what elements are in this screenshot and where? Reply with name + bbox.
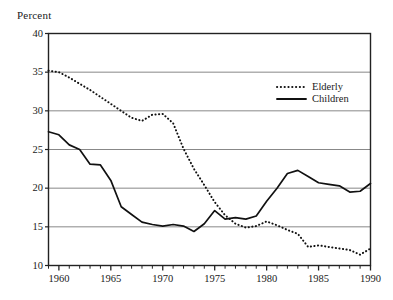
y-tick-label: 15 [21, 222, 43, 233]
y-tick-label: 30 [21, 106, 43, 117]
x-axis-minor-ticks [49, 266, 371, 271]
x-tick-label: 1960 [39, 274, 79, 285]
y-tick-label: 40 [21, 29, 43, 40]
y-tick-label: 10 [21, 261, 43, 272]
x-tick-label: 1965 [91, 274, 131, 285]
legend-label-children: Children [312, 93, 349, 104]
y-tick-label: 35 [21, 67, 43, 78]
x-tick-label: 1985 [299, 274, 339, 285]
series-line-children [49, 132, 371, 232]
y-tick-label: 25 [21, 145, 43, 156]
legend-label-elderly: Elderly [312, 81, 343, 92]
x-tick-label: 1970 [143, 274, 183, 285]
x-tick-label: 1980 [247, 274, 287, 285]
x-tick-label: 1975 [195, 274, 235, 285]
x-tick-label: 1990 [351, 274, 391, 285]
legend-swatches [277, 87, 306, 99]
plot-area [0, 0, 393, 300]
chart-figure: Percent 40353025201510 19601965197019751… [0, 0, 393, 300]
y-axis-tick-labels: 40353025201510 [18, 0, 43, 300]
y-tick-label: 20 [21, 183, 43, 194]
